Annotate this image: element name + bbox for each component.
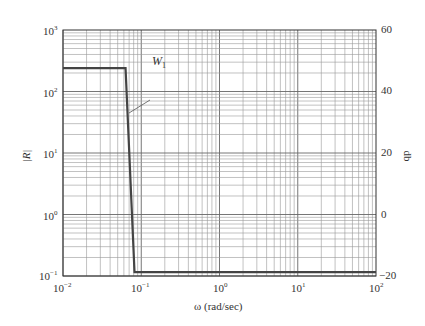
x-axis-label: ω (rad/sec) — [194, 300, 242, 312]
y-right-axis-label: db — [402, 151, 414, 162]
y-right-tick-4: −20 — [379, 269, 396, 281]
y-tick-2: 101 — [43, 147, 58, 160]
y-right-tick-2: 20 — [381, 146, 392, 158]
chart-plot-area — [0, 0, 425, 326]
y-tick-0: 103 — [43, 24, 58, 37]
x-tick-2: 100 — [213, 281, 228, 294]
series-label-leader — [129, 100, 150, 113]
series-label-w1: W1 — [152, 54, 166, 70]
y-right-tick-1: 40 — [381, 84, 392, 96]
x-tick-0: 10−2 — [53, 281, 71, 294]
y-tick-3: 100 — [43, 209, 58, 222]
y-axis-label: |R| — [20, 150, 32, 163]
x-tick-4: 102 — [369, 281, 384, 294]
x-tick-1: 10−1 — [131, 281, 149, 294]
x-tick-3: 101 — [291, 281, 306, 294]
y-tick-1: 102 — [43, 86, 58, 99]
y-tick-4: 10−1 — [39, 269, 57, 282]
y-right-tick-0: 60 — [381, 23, 392, 35]
y-right-tick-3: 0 — [381, 208, 387, 220]
